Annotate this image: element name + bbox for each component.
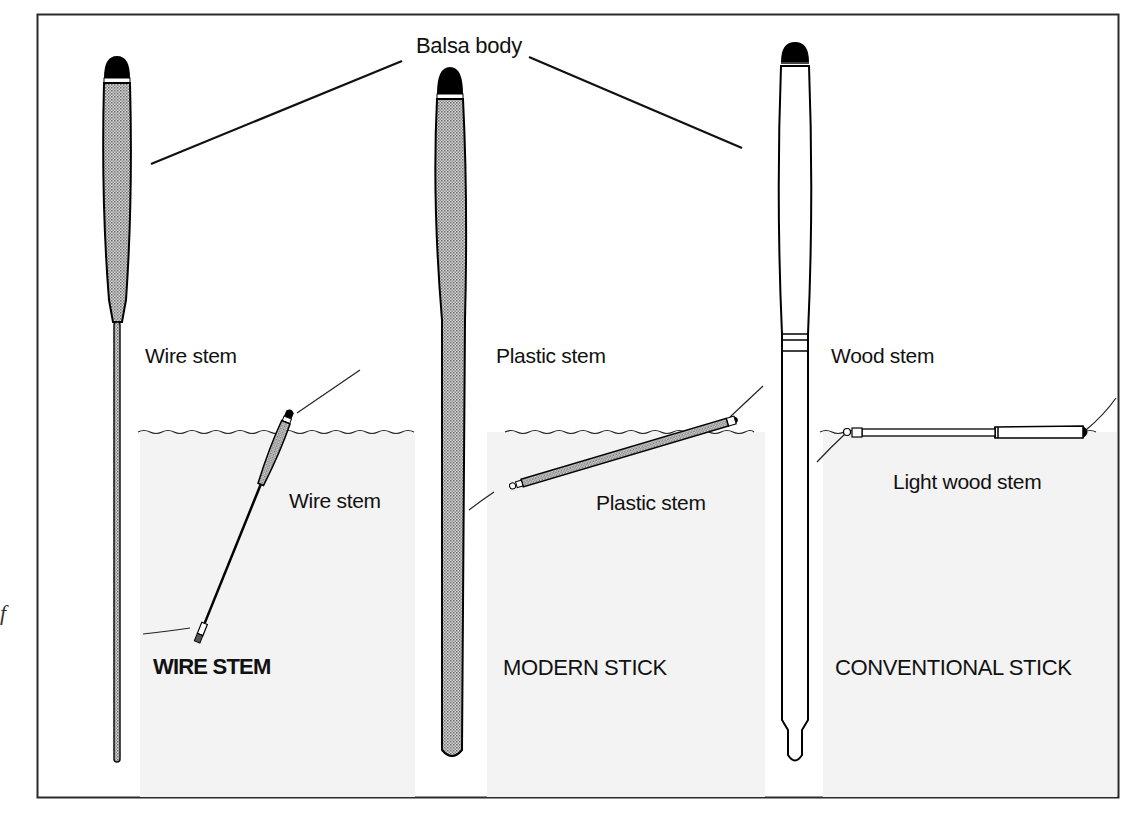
margin-text-fragment: f	[0, 600, 6, 626]
wire-float-body	[103, 83, 131, 322]
water-panel-modern	[487, 432, 765, 797]
float-diagram	[0, 0, 1137, 814]
modern-stick-float	[435, 67, 466, 756]
modern-float-cap	[437, 67, 463, 94]
leader-line-right	[529, 57, 742, 148]
wood-stem-label: Wood stem	[831, 344, 934, 368]
light-wood-stem-label: Light wood stem	[893, 470, 1041, 494]
wire-float-stem	[114, 322, 120, 762]
conventional-stick-caption: CONVENTIONAL STICK	[835, 655, 1071, 681]
modern-stick-caption: MODERN STICK	[503, 655, 667, 681]
water-panel-wire	[140, 432, 415, 797]
wire-stem-inwater-label: Wire stem	[289, 489, 381, 513]
wire-float-cap	[104, 56, 130, 78]
conventional-float-body	[779, 66, 812, 761]
leader-line-left	[151, 61, 402, 164]
fishing-line	[297, 370, 360, 413]
conventional-stick-float	[779, 42, 812, 761]
wire-stem-caption: WIRE STEM	[153, 654, 270, 680]
wire-stem-label: Wire stem	[145, 344, 237, 368]
plastic-stem-inwater-label: Plastic stem	[596, 491, 706, 515]
conventional-float-cap	[781, 42, 809, 62]
wire-stem-float	[103, 56, 131, 762]
plastic-stem-label: Plastic stem	[496, 344, 606, 368]
balsa-body-label: Balsa body	[416, 33, 522, 59]
modern-float-body	[435, 99, 466, 756]
